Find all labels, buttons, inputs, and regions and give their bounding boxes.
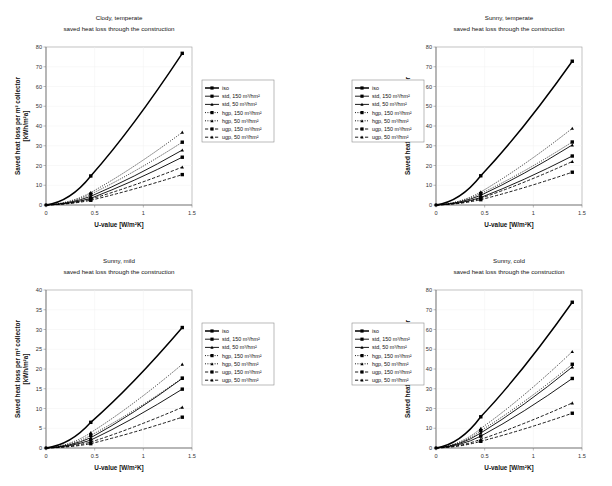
series-markers-0 — [435, 301, 574, 450]
data-point-marker — [181, 52, 184, 55]
legend-label: ugp, 150 m³/hm² — [372, 369, 412, 375]
legend-marker-square — [210, 127, 213, 130]
legend-marker-square — [360, 86, 363, 89]
chart-panel-clody-temperate: Clody, temperatesaved heat loss through … — [0, 0, 306, 243]
data-point-marker — [181, 376, 184, 379]
y-tick-label: 0 — [39, 445, 42, 451]
y-tick-label: 5 — [39, 425, 42, 431]
y-tick-label: 10 — [426, 425, 432, 431]
chart-legend[interactable]: isostd, 150 m³/hm²std, 50 m³/hm²hgp, 150… — [352, 323, 424, 385]
x-tick-label: 1.5 — [578, 210, 586, 216]
legend-label: std, 50 m³/hm² — [372, 344, 407, 350]
legend-marker-square — [210, 86, 213, 89]
chart-sunny-cold: Sunny, coldsaved heat loss through the c… — [306, 243, 612, 486]
legend-label: hgp, 50 m³/hm² — [222, 361, 259, 367]
x-tick-label: 1 — [532, 453, 535, 459]
data-point-marker — [571, 301, 574, 304]
chart-legend[interactable]: isostd, 150 m³/hm²std, 50 m³/hm²hgp, 150… — [202, 323, 274, 385]
y-tick-label: 0 — [429, 202, 432, 208]
x-tick-label: 0.5 — [91, 210, 99, 216]
x-tick-label: 0.5 — [481, 453, 489, 459]
legend-label: hgp, 150 m³/hm² — [222, 353, 262, 359]
series-markers-3 — [45, 376, 184, 449]
data-point-marker — [571, 160, 574, 163]
series-markers-2 — [435, 143, 574, 206]
data-point-marker — [89, 191, 92, 194]
x-axis-label: U-value [W/m²K] — [484, 221, 533, 229]
legend-marker-square — [210, 329, 213, 332]
data-point-marker — [89, 434, 92, 437]
data-point-marker — [571, 401, 574, 404]
series-line-iso-0 — [46, 328, 182, 448]
x-tick-label: 0.5 — [91, 453, 99, 459]
data-point-marker — [181, 156, 184, 159]
chart-panel-sunny-temperate: Sunny, temperatesaved heat loss through … — [306, 0, 612, 243]
legend-marker-square — [210, 111, 213, 114]
data-point-marker — [571, 154, 574, 157]
x-tick-label: 1.5 — [578, 453, 586, 459]
chart-legend[interactable]: isostd, 150 m³/hm²std, 50 m³/hm²hgp, 150… — [352, 80, 424, 142]
y-tick-label: 60 — [426, 327, 432, 333]
chart-legend[interactable]: isostd, 150 m³/hm²std, 50 m³/hm²hgp, 150… — [202, 80, 274, 142]
legend-label: iso — [222, 85, 229, 91]
data-point-marker — [181, 131, 184, 134]
data-point-marker — [571, 171, 574, 174]
data-point-marker — [571, 350, 574, 353]
y-tick-label: 70 — [36, 64, 42, 70]
series-markers-2 — [45, 377, 184, 449]
legend-label: ugp, 150 m³/hm² — [222, 126, 262, 132]
series-line-hgp-3 — [436, 364, 572, 448]
y-tick-label: 10 — [426, 182, 432, 188]
y-tick-label: 30 — [36, 143, 42, 149]
y-tick-label: 20 — [426, 406, 432, 412]
y-axis-label: Saved heat loss per m² collector — [14, 319, 22, 418]
legend-marker-square — [360, 370, 363, 373]
data-point-marker — [181, 387, 184, 390]
x-axis-label: U-value [W/m²K] — [94, 464, 143, 472]
x-axis-ticks: 00.511.5 — [434, 448, 585, 459]
chart-panel-sunny-mild: Sunny, mildsaved heat loss through the c… — [0, 243, 306, 486]
y-tick-label: 30 — [36, 327, 42, 333]
y-tick-label: 50 — [426, 103, 432, 109]
series-line-std-1 — [46, 389, 182, 448]
data-point-marker — [181, 148, 184, 151]
data-point-marker — [571, 60, 574, 63]
data-point-marker — [181, 140, 184, 143]
y-tick-label: 0 — [429, 445, 432, 451]
y-tick-label: 30 — [426, 143, 432, 149]
chart-title: Sunny, mild — [103, 257, 135, 264]
data-point-marker — [181, 363, 184, 366]
x-tick-label: 1 — [142, 210, 145, 216]
y-tick-label: 40 — [426, 366, 432, 372]
x-axis-ticks: 00.511.5 — [44, 448, 195, 459]
data-point-marker — [571, 412, 574, 415]
y-tick-label: 10 — [36, 182, 42, 188]
legend-marker-square — [210, 95, 213, 98]
x-axis-ticks: 00.511.5 — [44, 205, 195, 216]
x-axis-label: U-value [W/m²K] — [484, 464, 533, 472]
y-tick-label: 30 — [426, 386, 432, 392]
y-tick-label: 25 — [36, 346, 42, 352]
y-tick-label: 80 — [36, 44, 42, 50]
y-axis-ticks: 0510152025303540 — [36, 287, 46, 451]
y-tick-label: 20 — [426, 163, 432, 169]
legend-label: std, 150 m³/hm² — [222, 336, 260, 342]
series-markers-1 — [45, 387, 184, 449]
series-markers-4 — [45, 131, 184, 206]
legend-label: std, 150 m³/hm² — [372, 93, 410, 99]
y-tick-label: 20 — [36, 366, 42, 372]
series-line-ugp-5 — [46, 175, 182, 205]
y-tick-label: 80 — [426, 44, 432, 50]
chart-panel-sunny-cold: Sunny, coldsaved heat loss through the c… — [306, 243, 612, 486]
series-group — [435, 301, 574, 450]
legend-label: hgp, 150 m³/hm² — [222, 110, 262, 116]
series-line-std-2 — [46, 150, 182, 205]
series-group — [435, 60, 574, 207]
legend-label: ugp, 50 m³/hm² — [372, 377, 409, 383]
series-line-hgp-3 — [436, 142, 572, 205]
legend-marker-square — [210, 354, 213, 357]
y-tick-label: 50 — [426, 346, 432, 352]
legend-marker-square — [360, 338, 363, 341]
series-markers-2 — [45, 148, 184, 206]
data-point-marker — [181, 326, 184, 329]
